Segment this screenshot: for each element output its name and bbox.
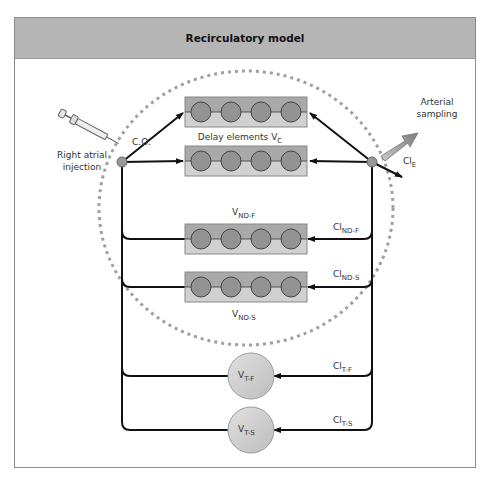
delay-arrow-top xyxy=(310,113,372,162)
recirculatory-model-diagram: Right atrial injection C.O. Delay elemen… xyxy=(0,0,492,481)
injection-label-line2: injection xyxy=(63,162,101,172)
delay-arrow-bottom xyxy=(310,161,372,162)
delay-elements-row-top xyxy=(185,97,307,127)
arterial-sampling-label-line1: Arterial xyxy=(420,97,453,107)
sampling-node xyxy=(367,157,377,167)
nd-s-right-branch xyxy=(308,279,372,287)
syringe-icon xyxy=(58,108,121,147)
arterial-sampling-label-line2: sampling xyxy=(416,109,457,119)
cardiac-output-label: C.O. xyxy=(132,137,151,147)
delay-elements-label: Delay elements VC xyxy=(198,132,283,145)
cl-nd-f-label: ClND-F xyxy=(333,222,359,235)
nd-f-left-branch xyxy=(122,231,185,239)
nd-s-left-branch xyxy=(122,279,185,287)
nd-f-compartment xyxy=(185,224,307,254)
t-f-left-branch xyxy=(122,368,228,376)
co-arrow-bottom xyxy=(122,161,183,162)
injection-label-line1: Right atrial xyxy=(57,150,107,160)
v-nd-f-label: VND-F xyxy=(232,207,255,220)
cl-e-label: ClE xyxy=(403,156,416,169)
v-nd-s-label: VND-S xyxy=(232,309,256,322)
cl-t-f-label: ClT-F xyxy=(333,361,352,374)
injection-node xyxy=(117,157,127,167)
cl-nd-s-label: ClND-S xyxy=(333,269,360,282)
t-f-right-branch xyxy=(274,368,372,376)
delay-elements-row-bottom xyxy=(185,146,307,176)
cl-t-s-label: ClT-S xyxy=(333,415,353,428)
arterial-sampling-arrow-icon xyxy=(381,133,418,161)
nd-f-right-branch xyxy=(308,231,372,239)
nd-s-compartment xyxy=(185,272,307,302)
